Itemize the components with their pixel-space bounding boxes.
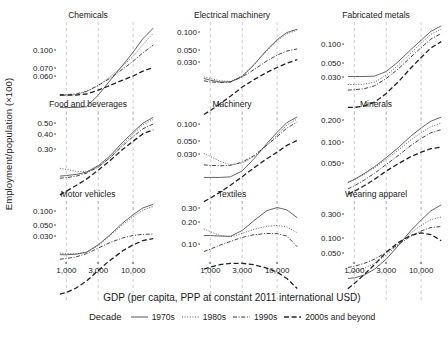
y-tick-label: 0.40 [37, 130, 53, 139]
legend-item-1980s: 1980s [182, 312, 226, 322]
x-tick-mark [210, 262, 211, 264]
legend-key-swatch [182, 314, 199, 320]
facet-panel: Food and beverages0.500.400.30 [16, 97, 160, 186]
series-line-1980s [60, 206, 153, 253]
facet-panel: Fabricated metals0.1000.0500.030 [304, 8, 448, 97]
series-line-1990s [348, 130, 441, 189]
x-tick-mark [242, 262, 243, 264]
facet-panel-title: Wearing apparel [304, 189, 448, 199]
x-tick-label: 10,000 [121, 266, 145, 275]
plot-area: 0.1000.0500.030 [56, 201, 156, 264]
y-tick-label: 0.030 [321, 72, 341, 81]
plot-area: 0.500.400.30 [56, 111, 156, 174]
x-tick-mark [277, 262, 278, 264]
y-tick-label: 0.100 [321, 233, 341, 242]
series-line-2000s-and-beyond [348, 233, 441, 289]
series-line-1990s [204, 49, 297, 83]
x-tick-label: 1,000 [56, 266, 76, 275]
y-tick-label: 0.100 [321, 40, 341, 49]
series-line-1980s [204, 30, 297, 81]
series-line-1970s [60, 204, 153, 254]
facet-panel: Chemicals0.1000.0700.060 [16, 8, 160, 97]
series-line-1970s [204, 207, 297, 236]
y-tick-label: 0.10 [181, 240, 197, 249]
y-tick-label: 0.100 [177, 28, 197, 37]
facet-panel-title: Motor vehicles [16, 189, 160, 199]
y-tick-label: 0.050 [321, 59, 341, 68]
x-tick-mark [98, 262, 99, 264]
facet-panel-title: Chemicals [16, 10, 160, 20]
x-axis: 1,0003,00010,000 [200, 264, 300, 276]
y-tick-label: 0.100 [33, 46, 53, 55]
facet-panel-title: Textiles [160, 189, 304, 199]
y-axis-title-area: Employment/population (×100) [0, 0, 16, 288]
facet-panel: Minerals0.2000.1000.050 [304, 97, 448, 186]
legend-item-2000s-and-beyond: 2000s and beyond [284, 312, 375, 322]
y-tick-label: 0.200 [321, 115, 341, 124]
legend-label: 1980s [203, 312, 226, 322]
facet-panel: Wearing apparel0.3000.1000.0501,0003,000… [304, 187, 448, 276]
facet-panel-title: Machinery [160, 99, 304, 109]
y-tick-label: 0.050 [177, 137, 197, 146]
x-axis: 1,0003,00010,000 [56, 264, 156, 276]
legend-key-swatch [131, 314, 148, 320]
series-line-2000s-and-beyond [60, 130, 153, 195]
x-tick-mark [66, 262, 67, 264]
facet-panel: Motor vehicles0.1000.0500.0301,0003,0001… [16, 187, 160, 276]
series-line-1990s [348, 33, 441, 90]
x-tick-label: 3,000 [88, 266, 108, 275]
facet-panel: Machinery0.1000.0500.030 [160, 97, 304, 186]
x-tick-mark [354, 262, 355, 264]
y-tick-label: 0.50 [37, 118, 53, 127]
plot-canvas [344, 201, 444, 301]
y-tick-label: 0.20 [181, 217, 197, 226]
plot-canvas [56, 201, 156, 301]
facet-panel-title: Fabricated metals [304, 10, 448, 20]
series-line-1990s [348, 226, 441, 267]
plot-area: 0.3000.1000.050 [344, 201, 444, 264]
legend-title: Decade [89, 311, 122, 322]
x-tick-label: 3,000 [232, 266, 252, 275]
series-line-1970s [348, 117, 441, 182]
legend-label: 1970s [152, 312, 175, 322]
x-tick-label: 10,000 [265, 266, 289, 275]
y-tick-label: 0.060 [33, 72, 53, 81]
facet-panel: Textiles0.300.200.101,0003,00010,000 [160, 187, 304, 276]
x-tick-mark [386, 262, 387, 264]
facet-panel: Electrical machinery0.1000.0500.030 [160, 8, 304, 97]
plot-area: 0.300.200.10 [200, 201, 300, 264]
plot-area: 0.1000.0700.060 [56, 22, 156, 85]
x-axis-title: GDP (per capita, PPP at constant 2011 in… [16, 292, 448, 303]
legend-key-swatch [284, 314, 301, 320]
series-line-2000s-and-beyond [60, 67, 153, 95]
plot-canvas [200, 201, 300, 301]
y-tick-label: 0.050 [321, 159, 341, 168]
series-line-1990s [60, 124, 153, 178]
x-tick-label: 1,000 [200, 266, 220, 275]
x-tick-label: 3,000 [376, 266, 396, 275]
y-tick-label: 0.050 [177, 45, 197, 54]
facet-grid: Chemicals0.1000.0700.060Electrical machi… [16, 8, 448, 276]
legend-label: 1990s [254, 312, 277, 322]
x-axis: 1,0003,00010,000 [344, 264, 444, 276]
facet-panel-title: Food and beverages [16, 99, 160, 109]
y-tick-label: 0.030 [177, 149, 197, 158]
plot-area: 0.1000.0500.030 [200, 111, 300, 174]
legend-key-swatch [233, 314, 250, 320]
series-line-1970s [204, 29, 297, 82]
legend-item-1990s: 1990s [233, 312, 277, 322]
series-line-1990s [204, 122, 297, 166]
x-tick-mark [421, 262, 422, 264]
series-line-1970s [60, 118, 153, 177]
series-line-1970s [60, 28, 153, 107]
y-tick-label: 0.30 [37, 145, 53, 154]
legend-item-1970s: 1970s [131, 312, 175, 322]
y-tick-label: 0.050 [321, 248, 341, 257]
series-line-1980s [60, 33, 153, 95]
x-tick-label: 10,000 [409, 266, 433, 275]
plot-area: 0.2000.1000.050 [344, 111, 444, 174]
legend-label: 2000s and beyond [305, 312, 375, 322]
y-tick-label: 0.050 [33, 221, 53, 230]
x-tick-mark [133, 262, 134, 264]
series-line-1970s [204, 117, 297, 178]
